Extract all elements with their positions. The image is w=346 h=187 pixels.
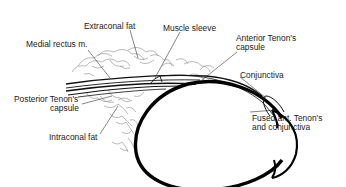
extraconal-fat-lobules (72, 47, 214, 84)
eye-anatomy-diagram: Extraconal fat Muscle sleeve Medial rect… (0, 0, 346, 187)
label-extraconal-fat: Extraconal fat (84, 22, 135, 31)
leader-intraconal-fat (100, 106, 118, 134)
label-muscle-sleeve: Muscle sleeve (163, 24, 216, 33)
label-posterior-tenon-line2: capsule (50, 104, 79, 113)
label-intraconal-fat: Intraconal fat (49, 133, 97, 142)
label-fused-line2: and conjunctiva (252, 123, 310, 132)
label-anterior-tenon-line2: capsule (236, 43, 265, 52)
label-conjunctiva: Conjunctiva (240, 71, 284, 80)
label-medial-rectus: Medial rectus m. (26, 40, 87, 49)
leader-muscle-sleeve (155, 32, 180, 78)
globe-sclera (135, 82, 282, 187)
leader-posterior-tenon (82, 96, 112, 104)
leader-anterior-tenon (202, 52, 237, 80)
